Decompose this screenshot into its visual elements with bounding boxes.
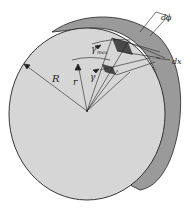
label-R: R [51, 73, 60, 84]
label-r: r [73, 77, 78, 87]
shaft-face [9, 28, 165, 200]
label-dx: dx [172, 57, 182, 66]
shaft-diagram: R r γ γ max dϕ dx [0, 0, 191, 208]
label-gamma: γ [90, 72, 96, 82]
label-gamma-max-sub: max [97, 49, 108, 55]
label-dphi: dϕ [161, 13, 172, 22]
center-point [86, 110, 88, 112]
